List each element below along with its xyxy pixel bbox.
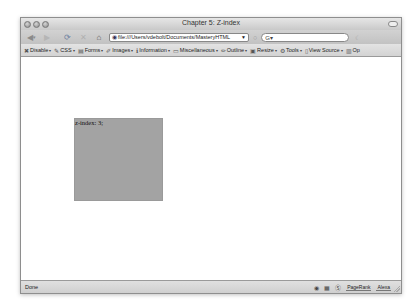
devbar-label: Resize	[257, 47, 274, 53]
miscellaneous-icon: ▭	[173, 47, 179, 54]
stop-icon: ✕	[80, 33, 87, 42]
information-icon: ℹ	[136, 47, 138, 54]
devbar-label: Information	[139, 47, 167, 53]
resize-grip-icon[interactable]	[393, 285, 400, 292]
disable-icon: ✖	[24, 47, 29, 54]
dropdown-arrow-icon: ▾	[275, 48, 277, 53]
dropdown-arrow-icon: ▾	[300, 48, 302, 53]
options-icon: ▥	[346, 47, 352, 54]
devbar-label: Tools	[286, 47, 299, 53]
devbar-label: View Source	[309, 47, 340, 53]
devbar-outline-menu[interactable]: ✏Outline▾	[221, 47, 247, 54]
images-icon: ✐	[106, 47, 111, 54]
devbar-options-menu[interactable]: ▥Op	[346, 47, 360, 54]
devbar-tools-menu[interactable]: ⚙Tools▾	[280, 47, 302, 54]
browser-window: Chapter 5: Z-index ◀▾ ▶ ⟳ ✕ ⌂ ◉ file:///…	[20, 17, 402, 294]
url-text[interactable]: file:///Users/vdebolt/Documents/MasteryH…	[118, 33, 230, 41]
addon-status-icon[interactable]: ◉	[314, 284, 319, 291]
forward-arrow-icon: ▶	[44, 33, 50, 42]
devbar-resize-menu[interactable]: ▣Resize▾	[250, 47, 277, 54]
devbar-label: Images	[112, 47, 130, 53]
window-title: Chapter 5: Z-index	[21, 19, 401, 26]
pagerank-indicator[interactable]: PageRank	[346, 284, 371, 291]
title-bar: Chapter 5: Z-index	[21, 18, 401, 30]
home-icon: ⌂	[97, 33, 102, 42]
web-developer-toolbar: ✖Disable▾ ✎CSS▾ ▤Forms▾ ✐Images▾ ℹInform…	[21, 44, 401, 57]
resize-icon: ▣	[250, 47, 256, 54]
search-engine-icon[interactable]: G▾	[265, 35, 273, 41]
status-bar: Done ◉ ▦ Ⓢ PageRank Alexa	[21, 280, 401, 293]
search-go-icon: ☾	[355, 35, 360, 41]
devbar-label: CSS	[60, 47, 71, 53]
devbar-label: Forms	[85, 47, 101, 53]
devbar-css-menu[interactable]: ✎CSS▾	[54, 47, 74, 54]
devbar-forms-menu[interactable]: ▤Forms▾	[78, 47, 104, 54]
go-button[interactable]: ○	[253, 34, 257, 41]
stop-button[interactable]: ✕	[77, 32, 89, 42]
devbar-view-source-menu[interactable]: ▯View Source▾	[305, 47, 343, 54]
dropdown-arrow-icon: ▾	[168, 48, 170, 53]
devbar-label: Miscellaneous	[180, 47, 215, 53]
forward-button[interactable]: ▶	[41, 32, 53, 42]
status-bar-addons: ◉ ▦ Ⓢ PageRank Alexa	[314, 283, 391, 292]
dropdown-arrow-icon: ▾	[216, 48, 218, 53]
url-history-dropdown-icon[interactable]: ▼	[241, 33, 246, 41]
devbar-label: Outline	[227, 47, 244, 53]
stumble-icon[interactable]: Ⓢ	[335, 283, 341, 292]
z-index-box: z-index: 3;	[74, 118, 163, 201]
search-go-button[interactable]: ☾	[355, 34, 360, 41]
dropdown-arrow-icon: ▾	[341, 48, 343, 53]
search-input[interactable]: G▾	[261, 33, 349, 42]
site-identity-icon: ◉	[112, 33, 117, 41]
devbar-label: Op	[353, 47, 360, 53]
devbar-disable-menu[interactable]: ✖Disable▾	[24, 47, 51, 54]
toolbar-toggle-button[interactable]	[388, 21, 398, 27]
back-button[interactable]: ◀▾	[25, 32, 37, 42]
dropdown-arrow-icon: ▾	[131, 48, 133, 53]
address-bar[interactable]: ◉ file:///Users/vdebolt/Documents/Master…	[109, 33, 249, 42]
dropdown-arrow-icon: ▾	[101, 48, 103, 53]
devbar-information-menu[interactable]: ℹInformation▾	[136, 47, 170, 54]
dropdown-arrow-icon: ▾	[49, 48, 51, 53]
devbar-label: Disable	[30, 47, 48, 53]
forms-icon: ▤	[78, 47, 84, 54]
back-history-dropdown-icon[interactable]: ▾	[33, 34, 36, 40]
status-text: Done	[25, 284, 38, 290]
css-icon: ✎	[54, 47, 59, 54]
validator-icon[interactable]: ▦	[324, 284, 330, 291]
dropdown-arrow-icon: ▾	[245, 48, 247, 53]
devbar-miscellaneous-menu[interactable]: ▭Miscellaneous▾	[173, 47, 218, 54]
view-source-icon: ▯	[305, 47, 308, 54]
tools-icon: ⚙	[280, 47, 285, 54]
devbar-images-menu[interactable]: ✐Images▾	[106, 47, 133, 54]
alexa-indicator[interactable]: Alexa	[376, 284, 391, 291]
z-index-label: z-index: 3;	[75, 119, 103, 126]
reload-icon: ⟳	[64, 33, 71, 42]
navigation-toolbar: ◀▾ ▶ ⟳ ✕ ⌂ ◉ file:///Users/vdebolt/Docum…	[21, 30, 401, 44]
home-button[interactable]: ⌂	[93, 32, 105, 42]
outline-icon: ✏	[221, 47, 226, 54]
go-icon: ○	[253, 34, 257, 41]
reload-button[interactable]: ⟳	[61, 32, 73, 42]
dropdown-arrow-icon: ▾	[73, 48, 75, 53]
page-content: z-index: 3;	[21, 57, 401, 282]
